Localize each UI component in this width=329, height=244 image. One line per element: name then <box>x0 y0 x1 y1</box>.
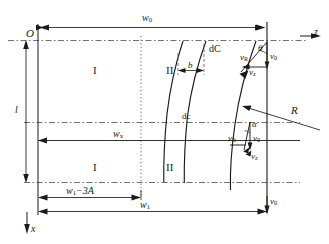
diagram-canvas <box>0 0 329 244</box>
vz-label-upper: vz <box>249 68 256 77</box>
flow-front-curves <box>164 41 256 190</box>
w1m-symbol: w <box>66 185 73 196</box>
wx-subscript: x <box>120 132 123 139</box>
origin-label: O <box>26 28 34 39</box>
x-axis-label: x <box>31 224 35 234</box>
technical-diagram: O z x w0 l wx w1−3A w1 b I II I II dC dc… <box>0 0 329 244</box>
construction-dashed-lines <box>8 41 308 183</box>
vR-label-upper: vR <box>240 53 248 62</box>
vz-label-lower: vz <box>251 152 258 161</box>
w1-symbol: w <box>140 199 147 210</box>
v0-lower-subscript: 0 <box>257 137 260 143</box>
v0-label-lower: v0 <box>253 134 260 143</box>
x-axis <box>24 212 30 234</box>
R-label: R <box>291 105 298 116</box>
vz-upper-subscript: z <box>253 71 256 77</box>
wx-dimension-line <box>38 138 300 144</box>
region-label-I-upper: I <box>93 65 97 76</box>
w1-dimension <box>38 209 267 215</box>
w0-subscript: 0 <box>149 16 152 23</box>
dc-label: dc <box>182 112 191 121</box>
w1-minus-3A-label: w1−3A <box>66 186 94 197</box>
v0-upper-subscript: 0 <box>274 55 277 61</box>
l-dimension <box>23 40 29 183</box>
vR-label-lower: vR <box>228 134 236 143</box>
alpha-label: α <box>252 120 257 129</box>
region-label-II-lower: II <box>166 162 173 173</box>
region-label-I-lower: I <box>93 162 97 173</box>
v0-label-bottom: v0 <box>270 197 277 206</box>
region-label-II-upper: II <box>166 65 173 76</box>
v0-label-upper: v0 <box>270 52 277 61</box>
theta-label: θ <box>258 44 262 53</box>
v0-bottom-subscript: 0 <box>274 200 277 206</box>
vz-lower-subscript: z <box>255 155 258 161</box>
w1m-tail: −3A <box>76 185 94 196</box>
w0-symbol: w <box>142 12 149 23</box>
wx-symbol: w <box>113 128 120 139</box>
dC-label: dC <box>209 44 221 54</box>
b-label: b <box>188 61 193 70</box>
l-label: l <box>15 105 18 115</box>
w1-subscript: 1 <box>147 203 150 210</box>
wx-label: wx <box>113 129 123 140</box>
w1-label: w1 <box>140 200 150 211</box>
z-axis-label: z <box>314 27 318 37</box>
vR-lower-subscript: R <box>232 137 236 143</box>
w0-label: w0 <box>142 13 152 24</box>
vR-upper-subscript: R <box>244 56 248 62</box>
